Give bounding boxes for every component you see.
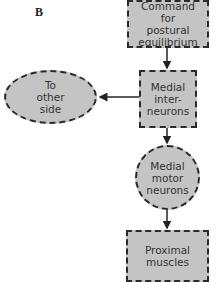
command-postural-equilibrium-node: Command for postural equilibrium xyxy=(127,0,209,48)
proximal-muscles-node: Proximal muscles xyxy=(126,230,209,282)
proximal-muscles-label: Proximal muscles xyxy=(145,244,190,268)
to-other-side-node: To other side xyxy=(4,70,97,124)
medial-motor-neurons-node: Medial motor neurons xyxy=(135,145,200,210)
medial-interneurons-node: Medial inter- neurons xyxy=(139,70,197,128)
medial-interneurons-label: Medial inter- neurons xyxy=(147,81,189,117)
medial-motor-neurons-label: Medial motor neurons xyxy=(146,160,188,196)
to-other-side-label: To other side xyxy=(37,79,65,115)
command-node-label: Command for postural equilibrium xyxy=(138,0,197,48)
panel-label: B xyxy=(35,5,43,20)
